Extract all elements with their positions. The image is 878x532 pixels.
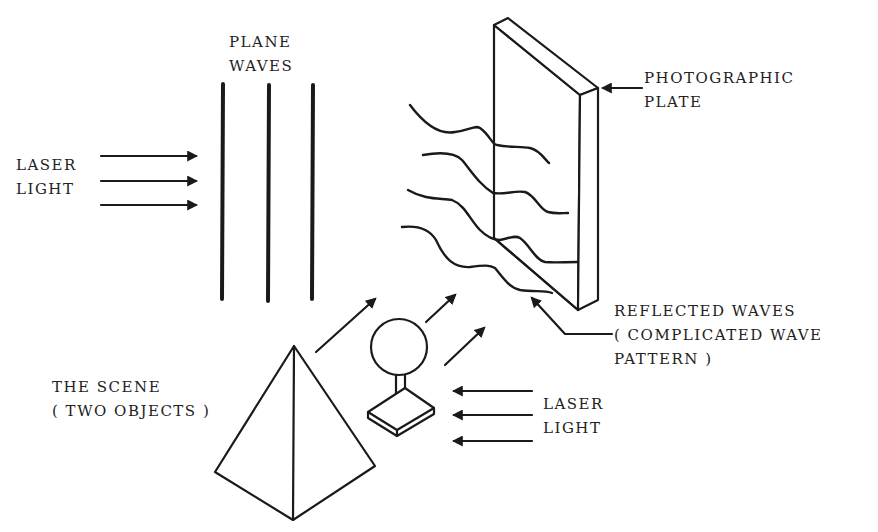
scene-line-1: THE SCENE (52, 375, 210, 399)
reflected-waves-label: REFLECTED WAVES ( COMPLICATED WAVE PATTE… (614, 299, 823, 371)
photographic-plate-line-2: PLATE (644, 90, 794, 114)
sphere-object (368, 319, 434, 436)
reflected-waves-line-2: ( COMPLICATED WAVE (614, 323, 823, 347)
photographic-plate (494, 18, 598, 310)
laser-light-left-line-2: LIGHT (16, 177, 77, 201)
hologram-recording-diagram: PLANE WAVES LASER LIGHT PHOTOGRAPHIC PLA… (0, 0, 878, 532)
plane-wavefronts (222, 84, 313, 301)
laser-light-right-line-1: LASER (543, 392, 604, 416)
photographic-plate-line-1: PHOTOGRAPHIC (644, 66, 794, 90)
laser-light-left-line-1: LASER (16, 153, 77, 177)
photographic-plate-label: PHOTOGRAPHIC PLATE (644, 66, 794, 114)
scene-line-2: ( TWO OBJECTS ) (52, 399, 210, 423)
scene-label: THE SCENE ( TWO OBJECTS ) (52, 375, 210, 423)
laser-light-right-line-2: LIGHT (543, 416, 604, 440)
laser-light-left-label: LASER LIGHT (16, 153, 77, 201)
laser-arrows-right (454, 391, 532, 441)
laser-arrows-left (101, 156, 196, 205)
plane-waves-line-1: PLANE (229, 30, 293, 54)
reflected-waves-line-1: REFLECTED WAVES (614, 299, 823, 323)
pyramid-object (215, 346, 375, 520)
laser-light-right-label: LASER LIGHT (543, 392, 604, 440)
reflected-waves-line-3: PATTERN ) (614, 347, 823, 371)
plane-waves-line-2: WAVES (229, 54, 293, 78)
plane-waves-label: PLANE WAVES (229, 30, 293, 78)
